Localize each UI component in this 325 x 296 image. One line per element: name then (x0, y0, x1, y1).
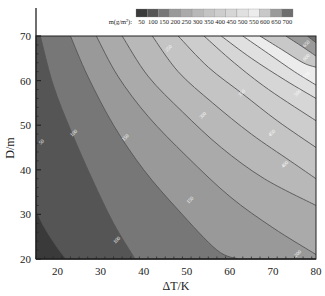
legend-swatch-100 (147, 9, 158, 17)
x-tick-label: 40 (138, 265, 150, 277)
legend-level-label: 450 (226, 18, 236, 25)
contour-chart: 5010010015015025030035040045050055060065… (0, 0, 325, 296)
legend-swatch-600 (259, 9, 270, 17)
legend-level-label: 350 (204, 18, 214, 25)
legend-swatch-550 (248, 9, 259, 17)
x-tick-label: 50 (181, 265, 193, 277)
legend-level-label: 400 (215, 18, 225, 25)
legend-level-label: 600 (260, 18, 270, 25)
legend-level-label: 700 (283, 18, 293, 25)
legend-level-label: 250 (182, 18, 192, 25)
y-tick-label: 30 (20, 208, 32, 220)
y-tick-label: 70 (20, 30, 32, 42)
plot-area: 5010010015015025030035040045050055060065… (36, 26, 325, 269)
legend-swatch-300 (192, 9, 203, 17)
legend-swatch-450 (226, 9, 237, 17)
legend-level-label: 50 (138, 18, 145, 25)
legend-swatch-500 (237, 9, 248, 17)
x-tick-label: 30 (95, 265, 107, 277)
x-axis-title: ΔT/K (162, 279, 189, 293)
legend-swatch-700 (282, 9, 293, 17)
y-tick-label: 40 (20, 164, 32, 176)
legend-level-label: 550 (249, 18, 259, 25)
legend: m(g/m²): 5010015020025030035040045050055… (109, 9, 293, 26)
x-tick-label: 70 (267, 265, 279, 277)
legend-swatch-200 (170, 9, 181, 17)
legend-level-label: 200 (170, 18, 180, 25)
legend-swatch-250 (181, 9, 192, 17)
x-tick-label: 80 (311, 265, 323, 277)
y-tick-label: 50 (20, 119, 32, 131)
legend-level-label: 500 (238, 18, 248, 25)
legend-level-label: 100 (148, 18, 158, 25)
legend-swatch-50 (136, 9, 147, 17)
legend-level-label: 150 (159, 18, 169, 25)
legend-swatch-400 (215, 9, 226, 17)
legend-swatch-650 (271, 9, 282, 17)
x-tick-label: 60 (224, 265, 236, 277)
legend-level-label: 650 (271, 18, 281, 25)
legend-swatch-350 (203, 9, 214, 17)
legend-level-label: 300 (193, 18, 203, 25)
legend-title: m(g/m²): (109, 18, 132, 26)
y-tick-label: 60 (20, 75, 32, 87)
legend-swatch-150 (158, 9, 169, 17)
y-axis-title: D/m (3, 137, 17, 159)
x-tick-label: 20 (52, 265, 64, 277)
y-tick-label: 20 (20, 253, 32, 265)
